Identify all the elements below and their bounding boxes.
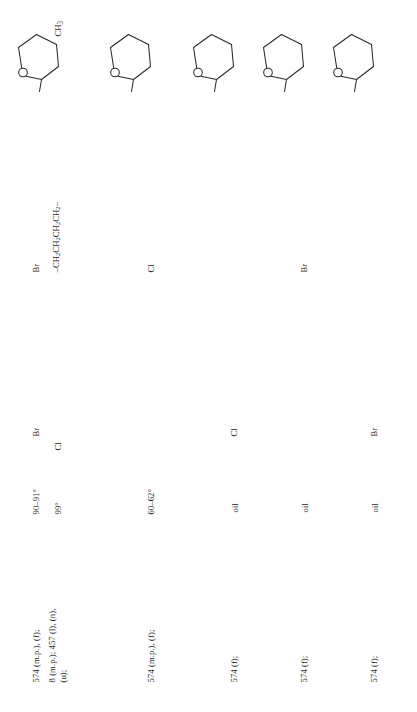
substituent-cell-row-3: Cl: [145, 264, 156, 272]
reference-cell-row-6: 574 (f);: [368, 655, 379, 682]
oxygen-atom-icon: [333, 68, 342, 77]
halogen-cell-row-4: Cl: [228, 428, 239, 436]
halogen-cell-row-1: Br: [30, 427, 41, 436]
oxygen-atom-icon: [193, 68, 202, 77]
reference-cell-row-3: 574 (m.p.), (f);: [145, 629, 156, 682]
reference-cell-row-5: 574 (f);: [298, 655, 309, 682]
melting-point-cell-row-3: 60–62°: [145, 488, 156, 514]
oxygen-atom-icon: [18, 68, 27, 77]
tetrahydropyran-ring-icon: [323, 20, 383, 94]
tetrahydropyran-ring-icon: [100, 20, 160, 94]
reference-cell-row-2-line-2: (u);: [57, 669, 68, 682]
melting-point-cell-row-5: oil: [299, 503, 310, 512]
structure-row-4: [183, 20, 243, 94]
oxygen-atom-icon: [110, 68, 119, 77]
reference-cell-row-4: 574 (f);: [228, 655, 239, 682]
chain-formula: –CH2CH2CH2CH2–: [50, 201, 60, 272]
structure-row-6: [323, 20, 383, 94]
structure-row-1: CH3: [8, 20, 68, 94]
halogen-cell-row-2: Cl: [52, 442, 63, 450]
methyl-group-label: CH3: [52, 20, 65, 36]
structure-row-5: [253, 20, 313, 94]
scanned-page-viewport: 574 (m.p.), (f); 8 (m.p.); 457 (l), (n),…: [0, 0, 417, 712]
melting-point-cell-row-4: oil: [229, 503, 240, 512]
reference-cell-row-1: 574 (m.p.), (f);: [30, 629, 41, 682]
substituent-chain-row-2: –CH2CH2CH2CH2–: [50, 201, 62, 272]
substituent-cell-row-1: Br: [30, 263, 41, 272]
substituent-cell-row-5: Br: [298, 263, 309, 272]
scanned-page-stage: 574 (m.p.), (f); 8 (m.p.); 457 (l), (n),…: [0, 0, 417, 712]
oxygen-atom-icon: [263, 68, 272, 77]
melting-point-cell-row-1: 90–91°: [30, 488, 41, 514]
tetrahydropyran-ring-icon: [183, 20, 243, 94]
tetrahydropyran-ring-icon: [253, 20, 313, 94]
melting-point-cell-row-2: 99°: [52, 502, 63, 514]
melting-point-cell-row-6: oil: [369, 503, 380, 512]
halogen-cell-row-6: Br: [368, 427, 379, 436]
reference-cell-row-2-line-1: 8 (m.p.); 457 (l), (n),: [46, 608, 57, 682]
structure-row-3: [100, 20, 160, 94]
